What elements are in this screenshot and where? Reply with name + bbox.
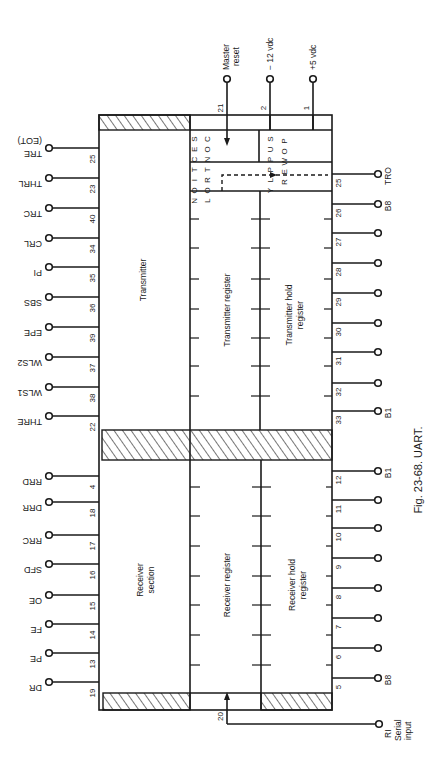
label-receiver-hold-1: Receiver hold	[287, 559, 297, 611]
left-pin-rrd: RRD4	[22, 473, 99, 490]
pin-label-2: reset	[231, 46, 241, 66]
top-pin-1: 1+5 vdc	[302, 44, 318, 130]
pin-label: RRC	[22, 536, 42, 546]
left-pin-fe: FE14	[30, 621, 99, 640]
pin-number: 5	[334, 684, 343, 689]
pin-number: 10	[334, 532, 343, 541]
pin-number: 26	[334, 208, 343, 217]
pin-label: THRE	[18, 417, 43, 427]
pin-label: OE	[29, 596, 42, 606]
chip-outline	[99, 115, 332, 710]
pin-label: Master	[221, 44, 231, 70]
hatch-bottom-left	[103, 693, 190, 710]
right-pin-33: 33B1	[332, 408, 393, 425]
pin-terminal	[375, 408, 382, 415]
right-pin-32: 32	[332, 380, 381, 397]
right-pin-7: 7	[332, 615, 381, 630]
left-pin-pe: PE13	[30, 650, 99, 669]
pin-terminal	[46, 205, 53, 212]
letter: N	[190, 198, 199, 204]
letter: O	[203, 146, 212, 152]
power-supply-label: SUPPLYPOWER	[266, 136, 289, 193]
pin-terminal	[46, 473, 53, 480]
letter: O	[280, 148, 289, 154]
left-pin-wls1: WLS138	[17, 384, 99, 403]
pin-terminal	[375, 555, 382, 562]
pin-number: 4	[88, 484, 97, 489]
pin-label: FE	[30, 625, 42, 635]
pin-number: 12	[334, 475, 343, 484]
label-input: input	[403, 721, 413, 740]
letter: S	[190, 136, 199, 141]
left-pin-sbs: SBS36	[24, 294, 99, 313]
pin-number: 29	[334, 297, 343, 306]
hatch-bottom-right	[261, 693, 332, 710]
letter: L	[203, 198, 212, 203]
right-pin-9: 9	[332, 555, 381, 570]
left-pin-rrc: RRC17	[22, 532, 99, 551]
pin-label: B8	[383, 201, 393, 212]
left-pin-drr: DRR18	[22, 499, 99, 518]
pin-terminal	[46, 413, 53, 420]
pin-number: 37	[88, 363, 97, 372]
pin-label: WLS2	[17, 358, 42, 368]
left-pin-thre: THRE22	[18, 413, 100, 432]
pin-terminal	[375, 615, 382, 622]
pin-label: WLS1	[17, 388, 42, 398]
letter: L	[266, 177, 275, 182]
pin-terminal	[46, 235, 53, 242]
letter: S	[266, 136, 275, 141]
pin-number: 31	[334, 356, 343, 365]
right-pin-6: 6	[332, 645, 381, 660]
left-pin-pi: PI35	[33, 264, 99, 283]
pin-label: TRO	[383, 167, 393, 185]
pin-terminal	[46, 650, 53, 657]
label-transmitter: Transmitter	[138, 259, 148, 302]
pin-terminal	[375, 230, 382, 237]
pin-terminal	[46, 175, 53, 182]
pin-terminal	[46, 264, 53, 271]
pin-number: 35	[88, 273, 97, 282]
left-pin-sfd: SFD16	[23, 561, 99, 580]
pin-number: 1	[302, 105, 311, 110]
pin-label: CRL	[24, 239, 42, 249]
label-transmitter-hold-2: register	[295, 301, 305, 330]
left-pin-wls2: WLS237	[17, 354, 99, 373]
label-receiver-section-2: section	[146, 566, 156, 593]
right-pin-30: 30	[332, 320, 381, 337]
pin-number: 7	[334, 624, 343, 629]
letter: P	[266, 167, 275, 172]
control-section-label: SECTIONCONTROL	[190, 136, 212, 204]
pin-label: TRE	[24, 149, 42, 159]
top-pin-2: 2− 12 vdc	[259, 37, 275, 130]
left-pin-trc: TRC40	[23, 205, 99, 224]
left-pin-thrl: THRL23	[18, 175, 99, 194]
pin-terminal	[46, 621, 53, 628]
pin-label: +5 vdc	[308, 44, 318, 70]
pin-ri-terminal	[376, 721, 383, 728]
left-pin-dr: DR19	[29, 679, 99, 698]
label-receiver-hold-2: register	[298, 571, 308, 600]
pin-terminal	[375, 320, 382, 327]
pin-terminal	[375, 290, 382, 297]
pin-label: − 12 vdc	[265, 37, 275, 70]
pin-terminal	[46, 145, 53, 152]
pin-label: B1	[383, 408, 393, 419]
pin-number-20: 20	[216, 712, 225, 721]
pin-terminal	[375, 525, 382, 532]
pin-terminal	[46, 561, 53, 568]
pin-number: 21	[216, 103, 225, 112]
letter: E	[280, 169, 289, 174]
letter: T	[190, 167, 199, 172]
letter: R	[203, 177, 212, 183]
pin-terminal	[375, 171, 382, 178]
pin-number: 18	[88, 508, 97, 517]
letter: T	[203, 167, 212, 172]
pin-number: 9	[334, 564, 343, 569]
pin-terminal	[267, 76, 274, 83]
pin-terminal	[375, 349, 382, 356]
right-pin-12: 12B1	[332, 468, 393, 485]
pin-terminal	[46, 354, 53, 361]
pin-terminal	[46, 324, 53, 331]
right-pin-31: 31	[332, 349, 381, 366]
